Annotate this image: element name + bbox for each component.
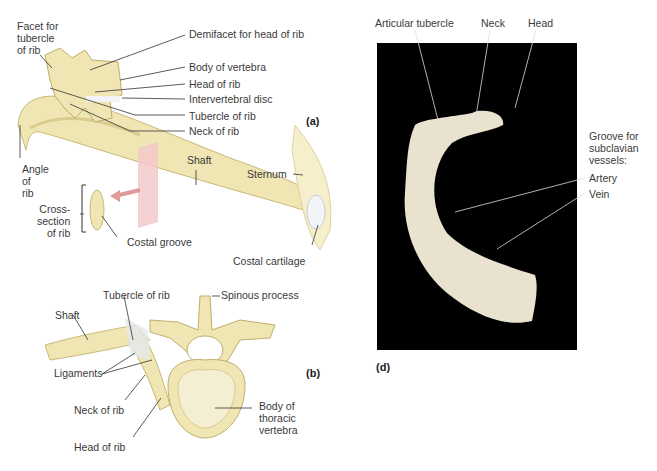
panel-tag-a: (a) [306, 115, 319, 127]
label-head-rib-a: Head of rib [189, 78, 240, 90]
panel-tag-d: (d) [376, 361, 390, 373]
label-intervertebral-disc: Intervertebral disc [189, 93, 272, 105]
label-articular-tubercle: Articular tubercle [375, 17, 454, 29]
label-spinous-process: Spinous process [221, 289, 299, 301]
label-body-thoracic-vertebra: Body of thoracic vertebra [259, 400, 298, 436]
label-shaft-b: Shaft [55, 309, 80, 321]
label-sternum: Sternum [247, 168, 287, 180]
label-artery: Artery [589, 172, 617, 184]
label-demifacet: Demifacet for head of rib [189, 28, 304, 40]
label-tubercle-rib-a: Tubercle of rib [189, 110, 256, 122]
label-angle-rib: Angle of rib [22, 163, 49, 199]
label-neck-d: Neck [481, 17, 505, 29]
panel-tag-b: (b) [306, 367, 320, 379]
label-costal-groove: Costal groove [127, 236, 192, 248]
label-groove-subclavian: Groove for subclavian vessels: [589, 130, 639, 166]
label-costal-cartilage: Costal cartilage [233, 255, 305, 267]
label-vein: Vein [589, 188, 609, 200]
label-shaft-a: Shaft [187, 154, 212, 166]
label-neck-rib-b: Neck of rib [74, 404, 124, 416]
label-neck-rib-a: Neck of rib [189, 125, 239, 137]
label-body-vertebra: Body of vertebra [189, 61, 266, 73]
label-head-d: Head [528, 17, 553, 29]
label-tubercle-rib-b: Tubercle of rib [103, 289, 170, 301]
label-head-rib-b: Head of rib [74, 441, 125, 453]
label-ligaments: Ligaments [54, 367, 102, 379]
label-cross-section: Cross- section of rib [37, 203, 70, 239]
label-facet-tubercle: Facet for tubercle of rib [17, 20, 58, 56]
leader-lines-d [0, 0, 657, 471]
